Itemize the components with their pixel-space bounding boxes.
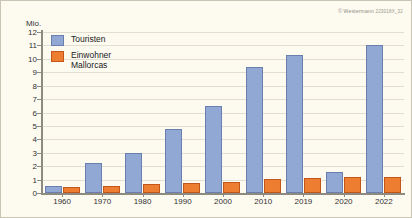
y-tick-label: 4 [21, 135, 37, 144]
bar-group [243, 32, 283, 193]
y-tick-label: 6 [21, 108, 37, 117]
bar-touristen-2019 [286, 55, 303, 193]
bar-touristen-2000 [205, 106, 222, 193]
y-tick-label: 2 [21, 162, 37, 171]
x-tick-label: 2022 [364, 197, 404, 206]
bar-einwohner-1970 [103, 186, 120, 193]
legend-item-einwohner: Einwohner Mallorcas [51, 50, 111, 70]
bar-einwohner-2020 [344, 177, 361, 193]
bar-einwohner-2019 [304, 178, 321, 193]
y-tick-label: 9 [21, 68, 37, 77]
y-axis-tick-labels: 0123456789101112 [19, 32, 37, 193]
y-tick-label: 1 [21, 175, 37, 184]
bar-einwohner-2000 [223, 182, 240, 193]
y-tick-label: 0 [21, 189, 37, 198]
y-tick-label: 5 [21, 121, 37, 130]
x-axis-tick-labels: 196019701980199020002010201920202022 [42, 197, 404, 206]
y-tick-label: 8 [21, 81, 37, 90]
legend-swatch-touristen [51, 35, 64, 46]
credit-code: 223018X_32 [375, 9, 403, 14]
bar-einwohner-1980 [143, 184, 160, 193]
y-tick-label: 11 [21, 41, 37, 50]
bar-group [324, 32, 364, 193]
x-tick-label: 1990 [163, 197, 203, 206]
y-tick-label: 12 [21, 28, 37, 37]
bar-einwohner-2022 [384, 177, 401, 193]
y-tick-label: 3 [21, 148, 37, 157]
bar-touristen-1990 [165, 129, 182, 193]
bar-touristen-1970 [85, 163, 102, 193]
y-tick-label: 7 [21, 95, 37, 104]
legend-label-einwohner: Einwohner Mallorcas [71, 50, 111, 70]
bar-einwohner-1990 [183, 183, 200, 193]
bar-einwohner-1960 [63, 187, 80, 193]
x-tick-label: 2020 [324, 197, 364, 206]
legend-swatch-einwohner [51, 51, 64, 62]
x-tick-label: 2010 [243, 197, 283, 206]
bar-touristen-2020 [326, 172, 343, 193]
legend-item-touristen: Touristen [51, 34, 111, 46]
credit-line: © Westermann 223018X_32 [338, 8, 403, 14]
y-tick-label: 10 [21, 54, 37, 63]
bar-touristen-2022 [366, 45, 383, 193]
chart-container: © Westermann 223018X_32 Mio. 01234567891… [0, 0, 412, 218]
bar-group [163, 32, 203, 193]
bar-einwohner-2010 [264, 179, 281, 193]
bar-touristen-2010 [246, 67, 263, 193]
bar-touristen-1980 [125, 153, 142, 193]
x-tick-label: 1970 [82, 197, 122, 206]
bar-touristen-1960 [45, 186, 62, 193]
legend: Touristen Einwohner Mallorcas [51, 34, 111, 74]
credit-publisher: © Westermann [338, 8, 374, 14]
x-tick-label: 1960 [42, 197, 82, 206]
bar-group [122, 32, 162, 193]
x-tick-label: 2000 [203, 197, 243, 206]
legend-label-touristen: Touristen [71, 34, 106, 44]
x-tick-label: 2019 [283, 197, 323, 206]
bar-group [203, 32, 243, 193]
x-tick-label: 1980 [122, 197, 162, 206]
bar-group [283, 32, 323, 193]
bar-group [364, 32, 404, 193]
